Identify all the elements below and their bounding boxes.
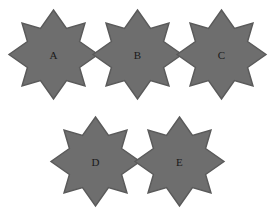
star-c-icon: [177, 10, 266, 99]
star-shape-a[interactable]: A: [9, 10, 98, 99]
star-shape-c[interactable]: C: [177, 10, 266, 99]
star-e-icon: [135, 117, 224, 206]
star-shape-e[interactable]: E: [135, 117, 224, 206]
star-b-icon: [93, 10, 182, 99]
star-d-icon: [51, 117, 140, 206]
star-a-icon: [9, 10, 98, 99]
star-shape-d[interactable]: D: [51, 117, 140, 206]
figure-canvas: A B C D E: [0, 0, 277, 214]
star-shape-b[interactable]: B: [93, 10, 182, 99]
